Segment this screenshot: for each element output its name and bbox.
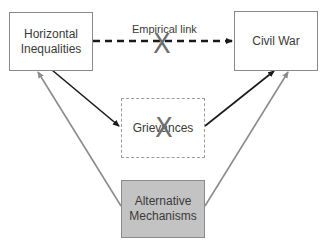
grievances-to-civilwar-arrow <box>205 71 274 126</box>
cross-mark-icon: X <box>155 115 173 141</box>
node-label: Inequalities <box>21 42 82 57</box>
node-label: Horizontal <box>21 27 82 42</box>
node-horizontal-inequalities: Horizontal Inequalities <box>9 12 93 71</box>
hi-to-grievances-arrow <box>52 70 119 126</box>
cross-mark-icon: X <box>153 31 171 57</box>
node-label: Alternative <box>129 194 196 209</box>
node-civil-war: Civil War <box>234 11 318 71</box>
node-label: Civil War <box>252 34 300 49</box>
node-alternative-mechanisms: Alternative Mechanisms <box>121 180 205 238</box>
node-label: Mechanisms <box>129 209 196 224</box>
